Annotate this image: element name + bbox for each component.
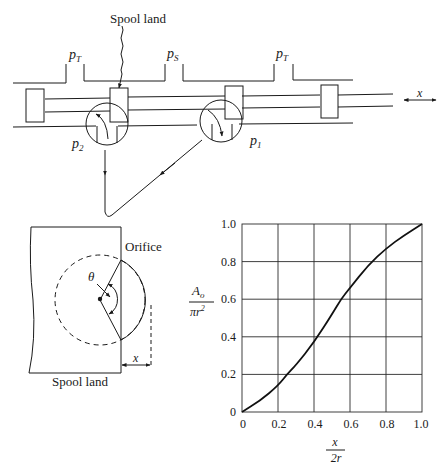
orifice-diagram: Orifice θ x Spool land bbox=[29, 227, 162, 389]
spool-land-bottom-label: Spool land bbox=[52, 374, 108, 389]
x-tick: 0.6 bbox=[344, 417, 359, 431]
y-axis-label: Ao πr2 bbox=[189, 283, 214, 319]
y-tick: 1.0 bbox=[221, 217, 236, 231]
angle-chord-lower bbox=[100, 300, 121, 340]
theta-pointer bbox=[97, 284, 110, 297]
detail-circle-p2 bbox=[86, 103, 128, 145]
x-tick: 1.0 bbox=[414, 417, 429, 431]
x-tick-labels: 0 0.2 0.4 0.6 0.8 1.0 bbox=[240, 417, 429, 431]
port-label-tank-right: pT bbox=[275, 46, 289, 63]
displacement-label: x bbox=[416, 86, 423, 100]
spool-land-left bbox=[26, 89, 44, 122]
detail-circle-p1 bbox=[200, 100, 242, 142]
flow-arrow-p2-icon bbox=[96, 114, 108, 139]
x-dimension-label: x bbox=[132, 351, 139, 365]
figure-canvas: Spool land pT pS pT p2 p1 x Orifice θ x … bbox=[0, 0, 446, 466]
theta-label: θ bbox=[88, 269, 95, 284]
plot-frame bbox=[242, 224, 422, 412]
svg-text:2r: 2r bbox=[331, 451, 342, 465]
orifice-center-dot bbox=[98, 297, 102, 301]
spool-rod bbox=[45, 94, 393, 112]
svg-text:x: x bbox=[331, 435, 338, 449]
port-label-load-1: p1 bbox=[249, 133, 262, 150]
x-tick: 0.8 bbox=[380, 417, 395, 431]
orifice-label: Orifice bbox=[125, 239, 162, 254]
area-ratio-chart: 0 0.2 0.4 0.6 0.8 1.0 0 0.2 0.4 0.6 0.8 … bbox=[189, 217, 429, 465]
y-tick: 0.2 bbox=[221, 367, 236, 381]
valve-housing-top bbox=[13, 64, 353, 83]
theta-arc bbox=[108, 284, 118, 314]
x-tick: 0.2 bbox=[272, 417, 287, 431]
grid-vertical bbox=[278, 224, 386, 412]
valve-housing-bottom bbox=[13, 123, 353, 127]
area-ratio-curve bbox=[242, 224, 422, 412]
y-tick: 0 bbox=[230, 405, 236, 419]
svg-text:πr2: πr2 bbox=[190, 304, 205, 319]
spool-land-label: Spool land bbox=[110, 11, 166, 26]
spool-valve-diagram: Spool land pT pS pT p2 p1 x bbox=[13, 11, 436, 216]
x-axis-label: x 2r bbox=[326, 435, 345, 465]
grid-horizontal bbox=[242, 262, 422, 375]
line-return bbox=[105, 140, 202, 216]
spool-land-block bbox=[29, 227, 121, 373]
port-walls-p1 bbox=[212, 124, 232, 140]
y-tick: 0.4 bbox=[221, 330, 236, 344]
orifice-exposed-arc bbox=[121, 260, 145, 340]
spool-land-leader bbox=[119, 26, 123, 88]
angle-chord-upper bbox=[100, 260, 121, 300]
y-tick-labels: 0 0.2 0.4 0.6 0.8 1.0 bbox=[221, 217, 236, 419]
flow-arrow-p1-icon bbox=[208, 110, 222, 136]
port-walls-p2 bbox=[97, 126, 117, 143]
port-label-tank-left: pT bbox=[68, 47, 82, 64]
x-tick: 0 bbox=[240, 417, 246, 431]
port-label-supply: pS bbox=[166, 46, 179, 63]
port-label-load-2: p2 bbox=[71, 136, 84, 153]
flow-arrow-return-icon bbox=[160, 163, 175, 175]
spool-land-2 bbox=[110, 88, 128, 122]
y-tick: 0.6 bbox=[221, 292, 236, 306]
y-tick: 0.8 bbox=[221, 255, 236, 269]
svg-text:Ao: Ao bbox=[191, 283, 205, 300]
spool-land-right bbox=[321, 85, 338, 118]
x-tick: 0.4 bbox=[308, 417, 323, 431]
